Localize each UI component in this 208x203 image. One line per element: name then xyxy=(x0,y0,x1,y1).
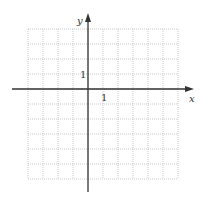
grid-lines xyxy=(28,29,178,179)
y-axis-arrow-icon xyxy=(85,13,91,22)
y-unit-label: 1 xyxy=(80,69,86,80)
x-axis-arrow-icon xyxy=(185,86,194,92)
x-unit-label: 1 xyxy=(101,92,107,103)
y-axis-label: y xyxy=(76,15,83,26)
x-axis-label: x xyxy=(189,93,195,104)
coordinate-plane: y x 1 1 xyxy=(0,0,208,203)
